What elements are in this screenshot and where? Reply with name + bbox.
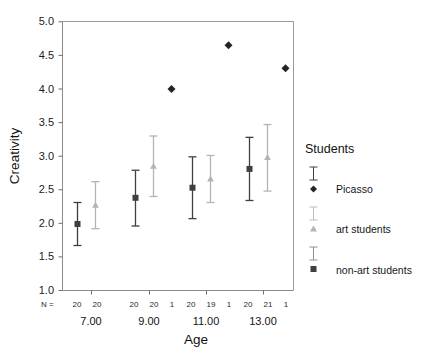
n-count: 20: [130, 300, 139, 309]
square-marker-icon: [311, 266, 317, 272]
x-group-label-7: 7.00: [80, 315, 101, 327]
triangle-marker-icon: [207, 176, 214, 182]
series-art-students: [92, 125, 272, 229]
square-marker-icon: [75, 221, 81, 227]
diamond-marker-icon: [310, 186, 317, 193]
chart-svg: 1.0 1.5 2.0 2.5 3.0 3.5: [0, 0, 422, 348]
data-point[interactable]: [132, 170, 140, 226]
y-tick-label: 1.5: [39, 250, 54, 262]
triangle-marker-icon: [92, 202, 99, 208]
y-axis: 1.0 1.5 2.0 2.5 3.0 3.5: [7, 15, 63, 296]
square-marker-icon: [247, 166, 253, 172]
diamond-marker-icon: [168, 85, 176, 93]
triangle-marker-icon: [150, 163, 157, 169]
x-group-label-9: 9.00: [138, 315, 159, 327]
y-tick-group: 2.0: [39, 217, 63, 229]
data-point[interactable]: [74, 203, 82, 246]
x-group-label-11: 11.00: [193, 315, 220, 327]
n-count: 20: [73, 300, 82, 309]
x-axis-title: Age: [184, 332, 208, 347]
errorbar-glyph-icon: [310, 167, 318, 180]
legend-title: Students: [305, 142, 354, 156]
y-tick-label: 1.0: [39, 284, 54, 296]
n-count: 20: [244, 300, 253, 309]
y-tick-group: 1.0: [39, 284, 63, 296]
errorbar-glyph-icon: [310, 207, 318, 220]
y-tick-group: 1.5: [39, 250, 63, 262]
n-count: 19: [207, 300, 216, 309]
y-tick-label: 3.5: [39, 116, 54, 128]
y-tick-label: 4.5: [39, 49, 54, 61]
y-tick-group: 4.0: [39, 83, 63, 95]
y-tick-label: 4.0: [39, 83, 54, 95]
y-tick-group: 4.5: [39, 49, 63, 61]
square-marker-icon: [190, 185, 196, 191]
legend-label: non-art students: [336, 264, 412, 276]
n-count: 1: [227, 300, 232, 309]
y-axis-title: Creativity: [7, 128, 22, 185]
data-point[interactable]: [246, 137, 254, 200]
n-count: 21: [264, 300, 273, 309]
data-point[interactable]: [189, 157, 197, 219]
series-Picasso: [168, 41, 290, 93]
legend: Students Picasso art students: [305, 142, 412, 276]
diamond-marker-icon: [225, 41, 233, 49]
legend-label: Picasso: [336, 183, 373, 195]
y-tick-group: 3.5: [39, 116, 63, 128]
n-count: 1: [170, 300, 175, 309]
square-marker-icon: [133, 195, 139, 201]
creativity-by-age-chart: 1.0 1.5 2.0 2.5 3.0 3.5: [0, 0, 422, 348]
n-counts-row: N = 20 20 20 20 1 20 19 1 20 21 1: [41, 300, 289, 309]
n-count: 1: [284, 300, 289, 309]
legend-entry-art-students[interactable]: art students: [310, 207, 391, 235]
n-count: 20: [187, 300, 196, 309]
plot-frame: [63, 22, 294, 291]
series-non-art-students: [74, 137, 254, 245]
data-point[interactable]: [150, 136, 158, 196]
data-point[interactable]: [264, 125, 272, 192]
y-tick-group: 2.5: [39, 183, 63, 195]
data-point[interactable]: [92, 182, 100, 229]
x-group-label-13: 13.00: [249, 315, 277, 327]
diamond-marker-icon: [282, 64, 290, 72]
x-axis: 7.00 9.00 11.00 13.00 Age: [80, 291, 276, 348]
triangle-marker-icon: [264, 154, 271, 160]
n-count: 20: [93, 300, 102, 309]
y-tick-label: 2.5: [39, 183, 54, 195]
y-tick-label: 2.0: [39, 217, 54, 229]
n-count: 20: [150, 300, 159, 309]
data-point[interactable]: [282, 64, 290, 72]
data-point[interactable]: [225, 41, 233, 49]
triangle-marker-icon: [310, 226, 317, 232]
y-tick-label: 3.0: [39, 150, 54, 162]
data-series-layer: [74, 41, 290, 245]
errorbar-glyph-icon: [310, 247, 318, 260]
y-tick-group: 5.0: [39, 15, 63, 27]
data-point[interactable]: [168, 85, 176, 93]
y-tick-label: 5.0: [39, 15, 54, 27]
legend-entry-non-art-students[interactable]: non-art students: [310, 247, 412, 276]
legend-entry-picasso[interactable]: Picasso: [310, 167, 373, 195]
legend-label: art students: [336, 223, 391, 235]
data-point[interactable]: [207, 155, 215, 202]
y-tick-group: 3.0: [39, 150, 63, 162]
n-row-label: N =: [41, 300, 54, 309]
